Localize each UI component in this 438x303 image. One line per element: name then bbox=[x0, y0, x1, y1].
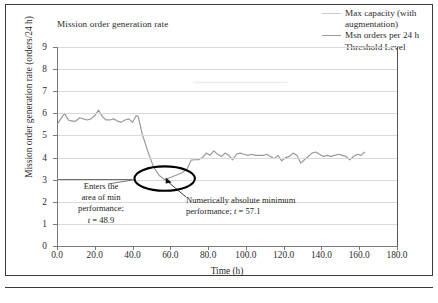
legend-label-max-capacity: Max capacity (with augmentation) bbox=[345, 8, 434, 29]
gridline bbox=[57, 158, 397, 159]
y-axis-line bbox=[57, 47, 58, 246]
y-axis-tick-labels: 0123456789 bbox=[0, 47, 52, 246]
gridline bbox=[57, 69, 397, 70]
gridline bbox=[57, 91, 397, 92]
x-axis-title: Time (h) bbox=[57, 266, 397, 276]
x-tick-label: 60.0 bbox=[162, 250, 178, 260]
annotation-line-1: Enters the bbox=[62, 181, 140, 192]
x-tick-label: 180.0 bbox=[386, 250, 407, 260]
x-tick-label: 100.0 bbox=[235, 250, 256, 260]
annotation-line-2-text: performance; bbox=[186, 206, 232, 216]
legend-item-msn-orders[interactable]: Msn orders per 24 h bbox=[322, 30, 434, 41]
x-axis-line bbox=[57, 246, 397, 247]
series-line bbox=[57, 110, 365, 180]
annotation-line-2: area of min bbox=[62, 192, 140, 203]
y-tick-label: 2 bbox=[42, 197, 47, 207]
legend-label-msn-orders: Msn orders per 24 h bbox=[345, 30, 434, 41]
annotation-line-3: performance; bbox=[62, 203, 140, 214]
y-tick-label: 3 bbox=[42, 175, 47, 185]
y-tick-label: 4 bbox=[42, 153, 47, 163]
y-tick-label: 8 bbox=[42, 64, 47, 74]
x-tick-label: 80.0 bbox=[200, 250, 216, 260]
figure-container: Mission order generation rate Max capaci… bbox=[0, 0, 438, 303]
annotation-line-2: performance; t = 57.1 bbox=[186, 206, 346, 217]
annotation-value: = 48.9 bbox=[90, 215, 114, 225]
x-tick-label: 0.0 bbox=[51, 250, 63, 260]
gridline bbox=[57, 113, 397, 114]
annotation-value: = 57.1 bbox=[236, 206, 260, 216]
line-swatch-icon bbox=[322, 8, 341, 19]
annotation-enters-min-performance: Enters the area of min performance; t = … bbox=[62, 181, 140, 226]
gridline bbox=[57, 135, 397, 136]
x-tick-label: 20.0 bbox=[87, 250, 103, 260]
y-tick-label: 9 bbox=[42, 42, 47, 52]
gridline bbox=[57, 47, 397, 48]
x-tick-label: 120.0 bbox=[273, 250, 294, 260]
bottom-divider bbox=[5, 287, 433, 288]
annotation-line-1: Numerically absolute minimum bbox=[186, 195, 346, 206]
x-tick-label: 140.0 bbox=[311, 250, 332, 260]
chart-title: Mission order generation rate bbox=[57, 19, 168, 29]
y-tick-label: 5 bbox=[42, 130, 47, 140]
annotation-absolute-minimum: Numerically absolute minimum performance… bbox=[186, 195, 346, 217]
x-tick-label: 40.0 bbox=[124, 250, 140, 260]
x-tick-label: 160.0 bbox=[349, 250, 370, 260]
line-swatch-icon bbox=[322, 30, 341, 41]
plot-right-border bbox=[397, 47, 398, 246]
y-tick-label: 6 bbox=[42, 108, 47, 118]
y-tick-label: 1 bbox=[42, 219, 47, 229]
legend-item-max-capacity[interactable]: Max capacity (with augmentation) bbox=[322, 8, 434, 29]
y-tick-label: 7 bbox=[42, 86, 47, 96]
x-axis-tick-labels: 0.020.040.060.080.0100.0120.0140.0160.01… bbox=[0, 250, 438, 264]
annotation-line-4: t = 48.9 bbox=[62, 215, 140, 226]
